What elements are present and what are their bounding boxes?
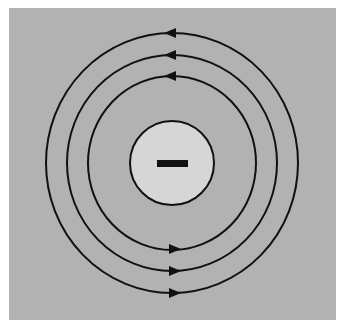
arrow-right-icon [169,244,181,254]
arrow-right-icon [169,288,181,298]
minus-sign-icon [157,160,188,167]
arrow-left-icon [164,50,176,60]
arrow-left-icon [164,71,176,81]
arrow-right-icon [169,266,181,276]
top-arrows [164,28,176,81]
arrow-left-icon [164,28,176,38]
bottom-arrows [169,244,181,298]
charge-field-diagram [0,0,345,332]
